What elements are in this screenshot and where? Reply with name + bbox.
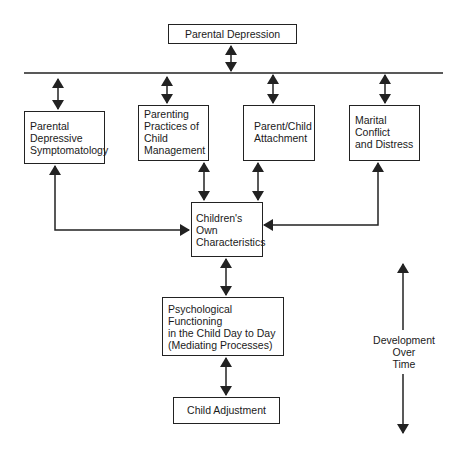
box-label: Management: [144, 144, 203, 156]
box-label: Parent/Child: [254, 120, 309, 132]
box-label: Attachment: [254, 132, 309, 144]
box-label: Practices of: [144, 120, 203, 132]
box-label: Parental: [30, 120, 99, 132]
box-label: Psychological: [168, 303, 278, 315]
box-label: and Distress: [355, 138, 414, 150]
child-adjustment-box: Child Adjustment: [173, 397, 280, 424]
box-label: Own: [196, 224, 257, 236]
symptomatology-box: Parental Depressive Symptomatology: [24, 111, 105, 164]
mediating-processes-box: Psychological Functioning in the Child D…: [162, 297, 284, 356]
parenting-practices-box: Parenting Practices of Child Management: [138, 105, 209, 161]
box-label: Marital: [355, 114, 414, 126]
elbow-arrow-icon: [55, 166, 189, 230]
box-label: Symptomatology: [30, 144, 99, 156]
marital-conflict-box: Marital Conflict and Distress: [349, 105, 420, 161]
box-label: Children's: [196, 212, 257, 224]
box-label: Child: [144, 132, 203, 144]
attachment-box: Parent/Child Attachment: [243, 105, 315, 161]
box-label: Functioning: [168, 315, 278, 327]
box-label: Conflict: [355, 126, 414, 138]
box-label: Parenting: [144, 108, 203, 120]
time-label-line: Time: [366, 358, 442, 370]
time-axis-label: Development Over Time: [366, 334, 442, 370]
parental-depression-box: Parental Depression: [168, 24, 297, 44]
box-label: Characteristics: [196, 236, 257, 248]
box-label: Parental Depression: [174, 28, 291, 40]
elbow-arrow-icon: [264, 163, 378, 225]
box-label: Child Adjustment: [179, 404, 274, 416]
box-label: Depressive: [30, 132, 99, 144]
time-label-line: Over: [366, 346, 442, 358]
child-characteristics-box: Children's Own Characteristics: [191, 202, 263, 257]
box-label: in the Child Day to Day: [168, 327, 278, 339]
box-label: (Mediating Processes): [168, 339, 278, 351]
time-label-line: Development: [366, 334, 442, 346]
